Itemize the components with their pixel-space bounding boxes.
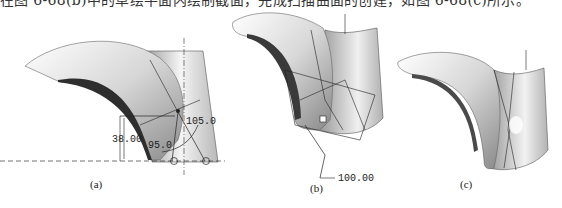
dimension-105: 105.0: [186, 116, 216, 127]
dimension-38: 38.00: [112, 134, 142, 145]
figure-a: 38.00 95.0 105.0 (a): [0, 0, 230, 208]
caption-a: (a): [90, 178, 102, 190]
cad-surface-b: 100.00: [225, 0, 395, 208]
caption-b: (b): [310, 182, 323, 194]
figure-c: (c): [392, 0, 562, 208]
dimension-95: 95.0: [148, 140, 172, 151]
figure-b: 100.00 (b): [225, 0, 395, 208]
caption-c: (c): [460, 178, 472, 190]
cad-surface-c: [392, 0, 562, 208]
cad-sketch-a: 38.00 95.0 105.0: [0, 0, 230, 208]
dimension-100: 100.00: [338, 173, 374, 184]
